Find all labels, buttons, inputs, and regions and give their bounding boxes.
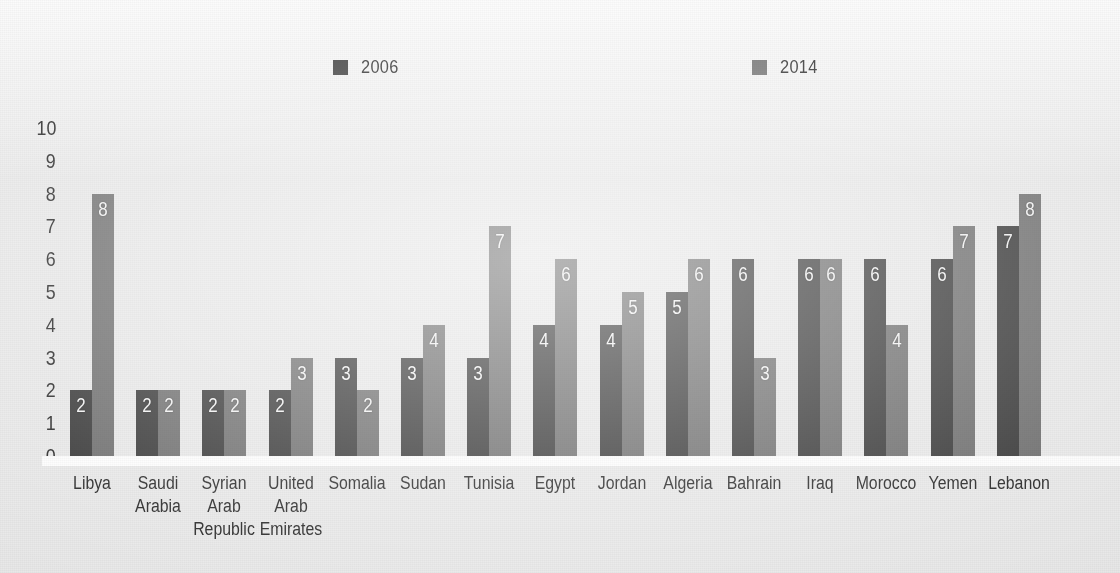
bar-2014: 2: [158, 390, 180, 456]
bar-2006: 6: [732, 259, 754, 456]
bar-value-label: 4: [601, 330, 620, 350]
bar-group: 64: [864, 116, 908, 456]
bar-value-label: 3: [292, 363, 311, 383]
bar-value-label: 6: [866, 264, 885, 284]
bar-group: 67: [931, 116, 975, 456]
x-axis-label-line: Arab: [252, 495, 329, 518]
bar-value-label: 2: [270, 395, 289, 415]
bar-2006: 4: [600, 325, 622, 456]
bar-group: 34: [401, 116, 445, 456]
bar-2014: 3: [291, 358, 313, 456]
bar-group: 28: [70, 116, 114, 456]
x-axis-baseline: [42, 456, 1120, 466]
bar-2006: 3: [401, 358, 423, 456]
bar-2006: 2: [136, 390, 158, 456]
bar-value-label: 2: [72, 395, 91, 415]
bar-group: 63: [732, 116, 776, 456]
bar-2006: 2: [269, 390, 291, 456]
x-axis-label: Lebanon: [980, 472, 1057, 495]
bar-2014: 2: [357, 390, 379, 456]
bar-value-label: 3: [336, 363, 355, 383]
bar-group: 32: [335, 116, 379, 456]
bar-value-label: 6: [822, 264, 841, 284]
bar-2014: 7: [489, 226, 511, 456]
bar-2014: 8: [92, 194, 114, 456]
bar-value-label: 2: [160, 395, 179, 415]
bar-2014: 8: [1019, 194, 1041, 456]
bar-value-label: 4: [888, 330, 907, 350]
bar-group: 23: [269, 116, 313, 456]
legend-entry-2006: 2006: [333, 54, 405, 80]
bar-2006: 5: [666, 292, 688, 456]
bar-value-label: 7: [954, 231, 973, 251]
legend-swatch-2014: [752, 60, 767, 75]
plot-area: 109876543210 282222233234374645566366646…: [0, 0, 1120, 573]
bar-2006: 3: [335, 358, 357, 456]
bar-value-label: 2: [226, 395, 245, 415]
bar-value-label: 5: [623, 297, 642, 317]
bar-value-label: 8: [94, 199, 113, 219]
bar-2014: 6: [688, 259, 710, 456]
x-axis-labels: LibyaSaudiArabiaSyrianArabRepublicUnited…: [0, 472, 1120, 567]
bar-value-label: 7: [491, 231, 510, 251]
legend-entry-2014: 2014: [752, 54, 824, 80]
bar-group: 22: [202, 116, 246, 456]
bar-value-label: 3: [403, 363, 422, 383]
bar-2006: 2: [70, 390, 92, 456]
x-axis-label-line: Lebanon: [980, 472, 1057, 495]
bar-value-label: 6: [557, 264, 576, 284]
chart-page: 2006 2014 109876543210 28222223323437464…: [0, 0, 1120, 573]
bar-2006: 7: [997, 226, 1019, 456]
bar-value-label: 6: [932, 264, 951, 284]
bar-value-label: 4: [535, 330, 554, 350]
bar-group: 66: [798, 116, 842, 456]
bar-2006: 4: [533, 325, 555, 456]
bar-value-label: 6: [734, 264, 753, 284]
bar-2014: 5: [622, 292, 644, 456]
bar-2006: 6: [931, 259, 953, 456]
bar-2014: 3: [754, 358, 776, 456]
bar-2006: 2: [202, 390, 224, 456]
bar-value-label: 8: [1020, 199, 1039, 219]
bar-value-label: 3: [756, 363, 775, 383]
bar-group: 45: [600, 116, 644, 456]
bar-2006: 6: [864, 259, 886, 456]
bar-2006: 3: [467, 358, 489, 456]
bar-value-label: 2: [138, 395, 157, 415]
legend-swatch-2006: [333, 60, 348, 75]
bar-group: 22: [136, 116, 180, 456]
bar-value-label: 2: [204, 395, 223, 415]
bar-group: 78: [997, 116, 1041, 456]
bar-group: 56: [666, 116, 710, 456]
bar-value-label: 2: [358, 395, 377, 415]
bar-group: 37: [467, 116, 511, 456]
x-axis-label-line: Emirates: [252, 518, 329, 541]
chart-legend: 2006 2014: [0, 54, 1120, 80]
bar-value-label: 5: [667, 297, 686, 317]
bar-2014: 4: [423, 325, 445, 456]
bar-2014: 2: [224, 390, 246, 456]
bar-value-label: 3: [469, 363, 488, 383]
bar-value-label: 6: [800, 264, 819, 284]
bar-2014: 7: [953, 226, 975, 456]
bar-2014: 4: [886, 325, 908, 456]
bar-group: 46: [533, 116, 577, 456]
bar-value-label: 6: [689, 264, 708, 284]
bar-2014: 6: [555, 259, 577, 456]
bar-2014: 6: [820, 259, 842, 456]
legend-label-2006: 2006: [361, 56, 399, 78]
bar-2006: 6: [798, 259, 820, 456]
bar-value-label: 4: [425, 330, 444, 350]
legend-label-2014: 2014: [780, 56, 818, 78]
bar-value-label: 7: [998, 231, 1017, 251]
